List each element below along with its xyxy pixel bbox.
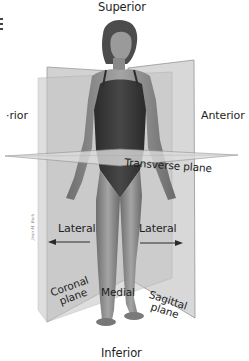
artist-signature: Jean M. Bark [30,213,35,240]
label-medial: Medial [101,286,135,298]
label-anterior: Anterior [201,110,245,122]
label-superior: Superior [98,1,146,13]
left-edge-cut-marks [0,18,4,62]
label-lateral-right: Lateral [139,223,177,235]
anatomical-planes-diagram: Superior ·rior Anterior Transverse plane… [0,0,249,361]
label-posterior-partial: ·rior [6,110,28,122]
label-inferior: Inferior [101,347,142,359]
label-lateral-left: Lateral [58,223,96,235]
scene-illustration [0,0,249,361]
